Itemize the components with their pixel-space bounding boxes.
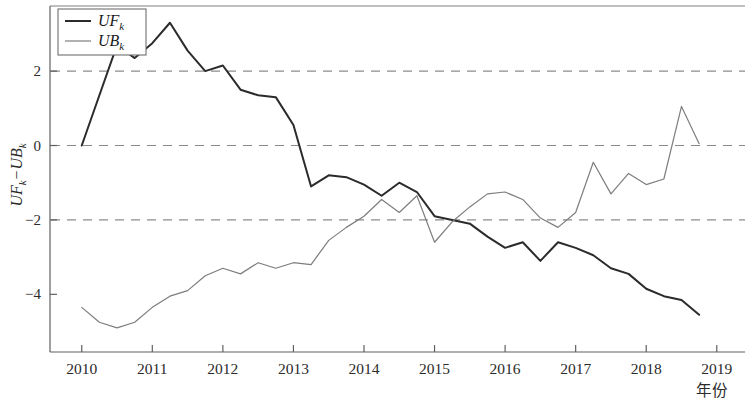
y-axis-title-minus-ub: −UB: [8, 148, 25, 180]
chart-container: 20−2−4 201020112012201320142015201620172…: [0, 0, 756, 407]
chart-legend: UFkUBk: [58, 9, 146, 55]
x-tick-label-0: 2010: [66, 360, 97, 377]
line-chart: 20−2−4 201020112012201320142015201620172…: [0, 0, 756, 407]
y-tick-label-2: −2: [25, 212, 41, 228]
x-tick-label-1: 2011: [137, 360, 167, 377]
x-tick-label-7: 2017: [560, 360, 591, 377]
y-tick-label-3: −4: [25, 286, 41, 302]
x-tick-label-3: 2013: [278, 360, 309, 377]
x-tick-label-8: 2018: [631, 360, 662, 377]
x-tick-label-4: 2014: [348, 360, 379, 377]
x-tick-label-9: 2019: [701, 360, 732, 377]
x-tick-label-6: 2016: [490, 360, 521, 377]
y-tick-label-1: 0: [34, 138, 42, 154]
x-tick-label-5: 2015: [419, 360, 450, 377]
x-axis-title: 年份: [696, 382, 728, 399]
y-tick-label-0: 2: [34, 63, 42, 79]
x-tick-label-2: 2012: [207, 360, 238, 377]
y-axis-title-uf: UF: [8, 185, 25, 207]
